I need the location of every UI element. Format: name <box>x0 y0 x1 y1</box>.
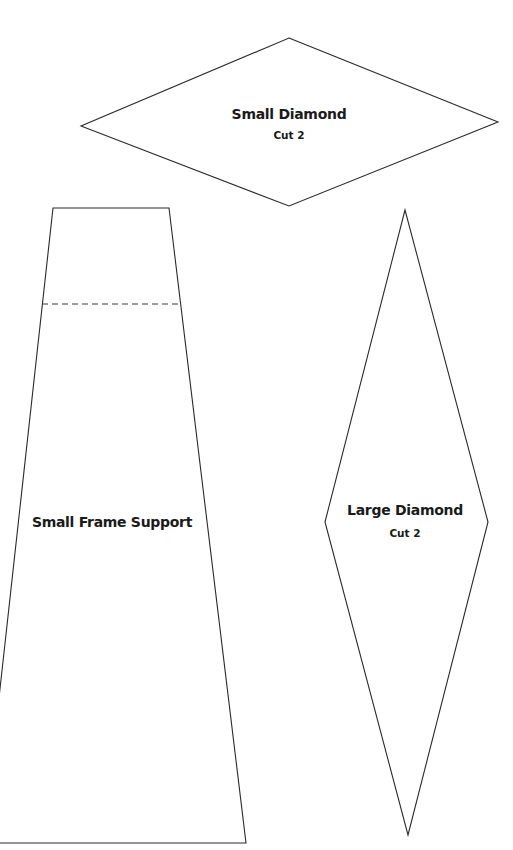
small-diamond-cut-count: Cut 2 <box>273 129 304 141</box>
large-diamond-title: Large Diamond <box>347 502 463 518</box>
small-frame-support-title: Small Frame Support <box>32 514 192 530</box>
large-diamond-cut-count: Cut 2 <box>389 527 420 539</box>
pattern-sheet <box>0 0 513 850</box>
large-diamond-outline <box>325 210 488 835</box>
small-diamond-outline <box>81 38 498 206</box>
small-diamond-title: Small Diamond <box>232 106 347 122</box>
